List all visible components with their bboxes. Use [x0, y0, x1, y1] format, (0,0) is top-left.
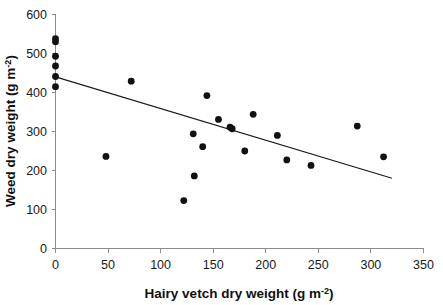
- y-axis: 600 500 400 300 200 100 0: [26, 8, 55, 256]
- x-axis-ticks: [56, 249, 424, 253]
- data-point: [52, 38, 59, 45]
- y-tick-label-500: 500: [26, 47, 47, 61]
- x-axis-title-superscript: -2: [321, 286, 329, 296]
- y-tick-label-200: 200: [26, 164, 47, 178]
- data-point: [274, 132, 281, 139]
- scatter-plot-figure: 600 500 400 300 200 100 0: [0, 0, 443, 305]
- x-axis-title-main: Hairy vetch dry weight (g m: [145, 286, 321, 301]
- data-point: [191, 173, 198, 180]
- x-tick-label-350: 350: [413, 258, 434, 272]
- data-point: [215, 116, 222, 123]
- data-point: [229, 125, 236, 132]
- data-point: [204, 92, 211, 99]
- x-tick-label-300: 300: [360, 258, 381, 272]
- y-axis-title-tail: ): [3, 55, 18, 60]
- chart-canvas: 600 500 400 300 200 100 0: [0, 0, 443, 305]
- data-point: [52, 53, 59, 60]
- data-point-series: [52, 35, 387, 204]
- y-axis-tick-labels: 600 500 400 300 200 100 0: [26, 8, 47, 256]
- y-axis-title: Weed dry weight (g m-2): [3, 55, 19, 207]
- x-tick-label-100: 100: [150, 258, 171, 272]
- data-point: [199, 143, 206, 150]
- data-point: [128, 78, 135, 85]
- x-axis-title-tail: ): [329, 286, 334, 301]
- data-point: [250, 111, 257, 118]
- data-point: [52, 83, 59, 90]
- y-tick-label-0: 0: [40, 242, 47, 256]
- y-axis-title-superscript: -2: [3, 60, 13, 68]
- x-tick-label-200: 200: [255, 258, 276, 272]
- y-tick-label-100: 100: [26, 203, 47, 217]
- regression-trend-line: [56, 77, 392, 178]
- y-axis-ticks: [52, 15, 56, 249]
- data-point: [180, 197, 187, 204]
- x-tick-label-150: 150: [203, 258, 224, 272]
- x-axis-tick-labels: 0 50 100 150 200 250 300 350: [52, 258, 434, 272]
- data-point: [241, 148, 248, 155]
- x-tick-label-250: 250: [308, 258, 329, 272]
- y-tick-label-400: 400: [26, 86, 47, 100]
- data-point: [190, 130, 197, 137]
- data-point: [308, 162, 315, 169]
- data-point: [52, 63, 59, 70]
- x-tick-label-0: 0: [52, 258, 59, 272]
- x-tick-label-50: 50: [101, 258, 115, 272]
- data-point: [103, 153, 110, 160]
- x-axis: 0 50 100 150 200 250 300 350: [52, 249, 434, 273]
- data-point: [354, 123, 361, 130]
- y-tick-label-600: 600: [26, 8, 47, 22]
- data-point: [52, 73, 59, 80]
- y-axis-title-main: Weed dry weight (g m: [3, 68, 18, 207]
- data-point: [380, 153, 387, 160]
- y-tick-label-300: 300: [26, 125, 47, 139]
- x-axis-title: Hairy vetch dry weight (g m-2): [145, 286, 334, 302]
- data-point: [283, 157, 290, 164]
